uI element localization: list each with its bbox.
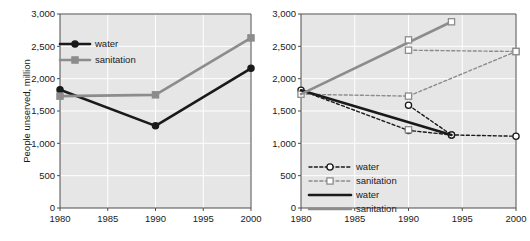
data-point-marker xyxy=(405,47,411,53)
data-point-marker xyxy=(405,102,411,108)
x-tick-label: 2000 xyxy=(240,213,261,224)
left-chart-svg: 05001,0001,5002,0002,5003,00019801985199… xyxy=(0,0,265,241)
x-tick-label: 1995 xyxy=(193,213,214,224)
legend-label: water xyxy=(355,161,379,172)
y-tick-label: 2,000 xyxy=(31,73,55,84)
y-tick-label: 500 xyxy=(39,170,55,181)
x-tick-label: 1995 xyxy=(452,213,473,224)
x-tick-label: 2000 xyxy=(505,213,526,224)
y-tick-label: 3,000 xyxy=(272,8,296,19)
data-point-marker xyxy=(405,37,411,43)
data-point-marker xyxy=(513,48,519,54)
y-tick-label: 500 xyxy=(280,170,296,181)
data-point-marker xyxy=(57,93,63,99)
x-tick-label: 1980 xyxy=(49,213,70,224)
x-tick-label: 1990 xyxy=(398,213,419,224)
series-sanitation-dashed-lower xyxy=(405,127,411,133)
legend-label: sanitation xyxy=(356,203,397,214)
y-tick-label: 1,500 xyxy=(272,105,296,116)
x-tick-label: 1980 xyxy=(290,213,311,224)
data-point-marker xyxy=(513,133,519,139)
data-point-marker xyxy=(57,87,63,93)
x-tick-label: 1990 xyxy=(145,213,166,224)
data-point-marker xyxy=(248,65,254,71)
y-tick-label: 2,500 xyxy=(272,41,296,52)
data-point-marker xyxy=(152,123,158,129)
data-point-marker xyxy=(448,19,454,25)
data-point-marker xyxy=(405,93,411,99)
y-tick-label: 1,500 xyxy=(31,105,55,116)
legend-label: water xyxy=(355,189,379,200)
right-chart-panel: 05001,0001,5002,0002,5003,00019801985199… xyxy=(265,0,530,241)
x-tick-label: 1985 xyxy=(344,213,365,224)
data-point-marker xyxy=(405,127,411,133)
y-tick-label: 2,000 xyxy=(272,73,296,84)
legend-label: water xyxy=(94,38,118,49)
data-point-marker xyxy=(72,41,78,47)
data-point-marker xyxy=(327,178,333,184)
y-tick-label: 3,000 xyxy=(31,8,55,19)
y-axis-title: People unserved, million xyxy=(21,59,32,163)
data-point-marker xyxy=(248,35,254,41)
y-tick-label: 0 xyxy=(50,202,55,213)
left-chart-panel: 05001,0001,5002,0002,5003,00019801985199… xyxy=(0,0,265,241)
y-tick-label: 1,000 xyxy=(272,138,296,149)
y-tick-label: 2,500 xyxy=(31,41,55,52)
right-chart-svg: 05001,0001,5002,0002,5003,00019801985199… xyxy=(265,0,530,241)
x-tick-label: 1985 xyxy=(97,213,118,224)
data-point-marker xyxy=(327,164,333,170)
data-point-marker xyxy=(72,57,78,63)
y-tick-label: 0 xyxy=(291,202,296,213)
legend-label: sanitation xyxy=(95,54,136,65)
legend-label: sanitation xyxy=(356,175,397,186)
two-panel-line-chart-figure: 05001,0001,5002,0002,5003,00019801985199… xyxy=(0,0,530,241)
y-tick-label: 1,000 xyxy=(31,138,55,149)
data-point-marker xyxy=(152,92,158,98)
